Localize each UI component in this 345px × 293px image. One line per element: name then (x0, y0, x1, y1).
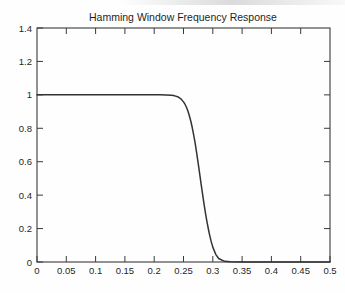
x-tick-label: 0 (34, 265, 39, 276)
y-tick-label: 0 (27, 257, 32, 268)
x-tick-label: 0.3 (206, 265, 219, 276)
x-axis-ticks-top (66, 28, 300, 34)
y-axis-tick-labels: 0 0.2 0.4 0.6 0.8 1 1.2 1.4 (19, 23, 32, 268)
y-axis-ticks-right (324, 61, 330, 228)
x-tick-label: 0.45 (291, 265, 310, 276)
y-tick-label: 0.6 (19, 156, 32, 167)
x-tick-label: 0.35 (233, 265, 252, 276)
x-tick-label: 0.25 (174, 265, 193, 276)
x-axis-ticks-bottom (37, 256, 330, 262)
y-tick-label: 1.4 (19, 23, 32, 34)
x-tick-label: 0.5 (323, 265, 336, 276)
x-tick-label: 0.05 (57, 265, 76, 276)
x-axis-tick-labels: 0 0.05 0.1 0.15 0.2 0.25 0.3 0.35 0.4 0.… (34, 265, 336, 276)
x-tick-label: 0.1 (89, 265, 102, 276)
frequency-response-curve (37, 95, 330, 262)
page-title: Hamming Window Frequency Response (89, 11, 277, 23)
plot-box-border (37, 28, 330, 262)
y-axis-ticks-left (37, 28, 43, 262)
y-tick-label: 1 (27, 89, 32, 100)
y-tick-label: 1.2 (19, 56, 32, 67)
y-tick-label: 0.4 (19, 190, 32, 201)
frequency-response-chart: Hamming Window Frequency Response (0, 0, 345, 293)
y-tick-label: 0.2 (19, 223, 32, 234)
x-tick-label: 0.15 (116, 265, 135, 276)
y-tick-label: 0.8 (19, 123, 32, 134)
x-tick-label: 0.4 (265, 265, 278, 276)
figure-container: Hamming Window Frequency Response (0, 0, 345, 293)
x-tick-label: 0.2 (148, 265, 161, 276)
